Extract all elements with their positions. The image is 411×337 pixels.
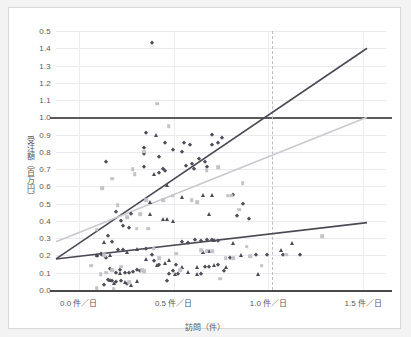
- data-point-square: [195, 200, 199, 204]
- data-point-square: [260, 264, 264, 268]
- data-point-square: [218, 277, 222, 281]
- data-point-square: [89, 264, 93, 268]
- y-axis-tick-label: 0.5: [39, 27, 51, 36]
- data-point-triangle: [118, 271, 122, 275]
- data-point-square: [103, 254, 107, 258]
- data-point-triangle: [186, 270, 190, 274]
- data-point-square: [142, 150, 146, 154]
- data-point-triangle: [108, 253, 112, 257]
- data-point-square: [99, 273, 103, 277]
- y-axis-title: 受注額（百万円）: [19, 136, 33, 200]
- data-point-square: [110, 268, 114, 272]
- y-axis-tick-label: 0.1: [39, 268, 51, 277]
- data-point-square: [211, 249, 215, 253]
- data-point-square: [110, 177, 114, 181]
- data-point-triangle: [102, 240, 106, 244]
- data-point-triangle: [135, 247, 139, 251]
- data-point-triangle: [144, 257, 148, 261]
- data-point-square: [120, 265, 124, 269]
- data-point-triangle: [167, 258, 171, 262]
- x-axis-title: 訪問（件）: [9, 321, 400, 332]
- data-point-square: [135, 227, 139, 231]
- data-point-triangle: [154, 133, 158, 137]
- data-point-triangle: [173, 272, 177, 276]
- data-point-triangle: [171, 219, 175, 223]
- chart-frame: 受注額（百万円） 0.00.10.20.30.40.50.60.70.80.91…: [8, 7, 401, 329]
- data-point-square: [224, 256, 228, 260]
- x-axis-tick-label: 0.5 件／日: [155, 297, 192, 308]
- data-point-triangle: [207, 212, 211, 216]
- data-point-triangle: [155, 263, 159, 267]
- data-point-triangle: [195, 265, 199, 269]
- data-point-square: [104, 271, 108, 275]
- data-point-square: [146, 227, 150, 231]
- data-point-square: [249, 255, 253, 259]
- data-point-square: [156, 102, 160, 106]
- data-point-square: [230, 194, 234, 198]
- data-point-triangle: [256, 272, 260, 276]
- data-point-triangle: [148, 200, 152, 204]
- data-point-square: [232, 256, 236, 260]
- y-axis-tick-label: 0.9: [39, 130, 51, 139]
- data-point-square: [131, 167, 135, 171]
- x-axis-tick-label: 1.0 件／日: [250, 297, 287, 308]
- data-point-triangle: [165, 217, 169, 221]
- data-point-square: [161, 198, 165, 202]
- data-point-square: [241, 181, 245, 185]
- x-axis-line: [50, 290, 392, 292]
- data-point-square: [190, 198, 194, 202]
- data-point-triangle: [165, 183, 169, 187]
- data-point-triangle: [163, 261, 167, 265]
- data-point-square: [125, 216, 129, 220]
- data-point-square: [127, 280, 131, 284]
- data-point-triangle: [112, 281, 116, 285]
- data-point-square: [175, 252, 179, 256]
- y-axis-tick-label: 1.3: [39, 61, 51, 70]
- data-point-triangle: [231, 241, 235, 245]
- data-point-square: [321, 235, 325, 239]
- y-axis-tick-label: 1.2: [39, 78, 51, 87]
- data-point-triangle: [152, 172, 156, 176]
- data-point-square: [101, 186, 105, 190]
- data-point-triangle: [210, 193, 214, 197]
- y-axis-tick-label: 0.2: [39, 251, 51, 260]
- data-point-square: [216, 166, 220, 170]
- y-axis-tick-label: 0.3: [39, 234, 51, 243]
- data-point-square: [199, 248, 203, 252]
- y-axis-tick-label: 0.7: [39, 165, 51, 174]
- data-point-triangle: [212, 263, 216, 267]
- y-axis-tick-label: 0.6: [39, 182, 51, 191]
- data-point-triangle: [180, 195, 184, 199]
- data-point-square: [152, 247, 156, 251]
- data-point-triangle: [125, 250, 129, 254]
- data-point-triangle: [239, 253, 243, 257]
- data-point-square: [139, 212, 143, 216]
- y-axis-tick-label: 1.1: [39, 96, 51, 105]
- y-axis-tick-label: 0.5: [39, 199, 51, 208]
- data-point-square: [237, 208, 241, 212]
- data-point-triangle: [95, 253, 99, 257]
- data-point-square: [245, 245, 249, 249]
- y-axis-tick-label: 0.4: [39, 216, 51, 225]
- data-point-triangle: [135, 279, 139, 283]
- data-point-square: [205, 168, 209, 172]
- data-point-triangle: [290, 241, 294, 245]
- data-point-square: [144, 198, 148, 202]
- data-point-square: [140, 268, 144, 272]
- x-axis-tick-label: 0.0 件／日: [60, 297, 97, 308]
- y-axis-tick-label: 1.4: [39, 44, 51, 53]
- data-point-square: [285, 253, 289, 257]
- data-point-triangle: [279, 248, 283, 252]
- data-point-square: [178, 268, 182, 272]
- data-point-triangle: [201, 193, 205, 197]
- data-point-triangle: [224, 265, 228, 269]
- data-point-square: [205, 249, 209, 253]
- data-point-triangle: [195, 272, 199, 276]
- data-point-triangle: [108, 278, 112, 282]
- data-point-square: [116, 204, 120, 208]
- y-axis-tick-label: 0.8: [39, 147, 51, 156]
- data-point-square: [167, 124, 171, 128]
- data-point-square: [133, 173, 137, 177]
- plot-area: 0.00.10.20.30.40.50.60.70.80.91.01.11.21…: [56, 31, 386, 290]
- data-point-triangle: [212, 238, 216, 242]
